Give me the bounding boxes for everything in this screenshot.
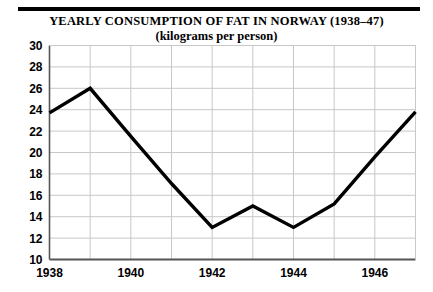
x-tick-label: 1940 bbox=[117, 266, 144, 280]
y-tick-label: 24 bbox=[29, 103, 43, 117]
line-chart: 1012141618202224262830 19381940194219441… bbox=[0, 0, 433, 292]
y-tick-label: 30 bbox=[29, 39, 43, 53]
x-tick-label: 1946 bbox=[361, 266, 388, 280]
x-axis-tick-labels: 19381940194219441946 bbox=[36, 266, 388, 280]
y-tick-label: 14 bbox=[29, 210, 43, 224]
y-tick-label: 20 bbox=[29, 146, 43, 160]
y-tick-label: 12 bbox=[29, 232, 43, 246]
y-axis-tick-labels: 1012141618202224262830 bbox=[29, 39, 43, 267]
x-tick-label: 1942 bbox=[199, 266, 226, 280]
y-tick-label: 18 bbox=[29, 167, 43, 181]
y-tick-label: 16 bbox=[29, 189, 43, 203]
x-tick-label: 1944 bbox=[280, 266, 307, 280]
series-polyline bbox=[50, 88, 416, 227]
plot-area: 1012141618202224262830 19381940194219441… bbox=[0, 0, 433, 292]
x-tick-label: 1938 bbox=[36, 266, 63, 280]
data-series-line bbox=[50, 88, 416, 227]
y-tick-label: 26 bbox=[29, 82, 43, 96]
y-tick-label: 28 bbox=[29, 60, 43, 74]
y-tick-label: 22 bbox=[29, 125, 43, 139]
chart-page: YEARLY CONSUMPTION OF FAT IN NORWAY (193… bbox=[0, 0, 433, 292]
horizontal-gridlines bbox=[50, 46, 416, 239]
